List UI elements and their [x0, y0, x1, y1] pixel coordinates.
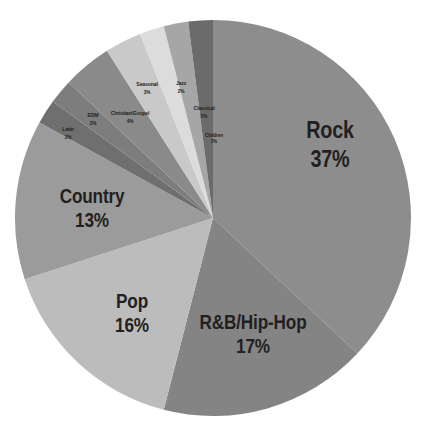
pie-chart-canvas	[0, 0, 426, 441]
pie-chart: Rock 37% R&B/Hip-Hop 17% Pop 16% Country…	[0, 0, 426, 441]
pie-slice-group	[15, 20, 411, 416]
